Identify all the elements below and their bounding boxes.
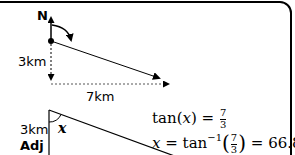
equation-line-2: x = tan−1(73) = 66.8º <box>152 133 295 155</box>
eq2-fraction: 73 <box>231 133 237 155</box>
eq2-exponent: −1 <box>207 132 222 143</box>
vertical-distance-label: 3km <box>18 55 46 68</box>
triangle-side-label: 3km <box>20 123 48 136</box>
equation-line-1: tan(x) = 73 <box>152 108 227 130</box>
eq1-fraction: 73 <box>220 108 226 130</box>
triangle-side-role: Adj <box>20 139 44 152</box>
eq2-result: 66.8º <box>268 134 295 152</box>
horizontal-distance-label: 7km <box>86 90 114 103</box>
eq2-equals: = <box>165 134 178 152</box>
eq1-equals: = <box>202 109 215 127</box>
bearing-arc-icon <box>52 25 71 40</box>
eq1-var: x <box>183 109 191 127</box>
bearing-line-arrow <box>51 41 159 78</box>
angle-label: x <box>58 121 66 135</box>
north-label: N <box>37 9 48 22</box>
eq2-equals-2: = <box>251 134 264 152</box>
eq2-var: x <box>152 134 160 152</box>
eq2-func: tan <box>183 134 208 152</box>
eq1-func: tan <box>152 109 177 127</box>
